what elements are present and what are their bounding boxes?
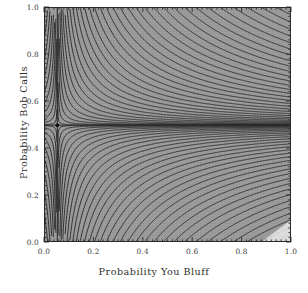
saddle-point-marker [55,123,59,127]
plot-area [44,7,291,242]
x-tick-label: 0.0 [38,247,50,256]
y-tick-label: 0.0 [18,238,39,247]
y-tick-label: 1.0 [18,3,39,12]
x-axis-title: Probability You Bluff [0,266,308,277]
x-tick-label: 0.2 [87,247,99,256]
shading-texture [44,7,291,242]
contour-plot-figure: 0.00.20.40.60.81.0 0.00.20.40.60.81.0 Pr… [0,0,308,293]
y-axis-title: Probability Bob Calls [18,43,29,203]
x-tick-label: 0.4 [137,247,149,256]
contour-lines-group [44,7,291,242]
x-tick-label: 1.0 [285,247,297,256]
x-tick-label: 0.6 [186,247,198,256]
x-tick-label: 0.8 [235,247,247,256]
